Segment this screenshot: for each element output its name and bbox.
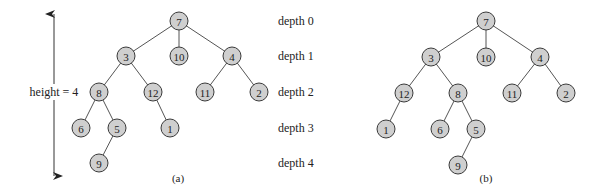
node-label: 2	[563, 88, 569, 100]
height-annotation: height = 4	[30, 14, 79, 176]
tree-edge	[126, 21, 179, 56]
node-label: 8	[455, 88, 461, 100]
tree-node: 3	[422, 48, 440, 66]
node-label: 10	[174, 51, 186, 63]
node-label: 9	[96, 158, 102, 170]
tree-edge	[431, 21, 486, 57]
tree-node: 6	[431, 120, 449, 138]
node-label: 3	[428, 52, 434, 64]
depth-label: depth 2	[278, 85, 314, 99]
depth-label: depth 1	[278, 49, 314, 63]
depth-label: depth 4	[278, 156, 314, 170]
node-label: 7	[176, 16, 182, 28]
node-label: 12	[148, 87, 159, 99]
node-label: 6	[78, 123, 84, 135]
tree-node: 11	[503, 84, 521, 102]
depth-label: depth 3	[278, 121, 314, 135]
tree-node: 9	[449, 156, 467, 174]
tree-b-nodes: 731041281121659	[377, 12, 575, 174]
tree-edge	[179, 21, 232, 56]
tree-node: 5	[467, 120, 485, 138]
node-label: 1	[383, 124, 389, 136]
node-label: 11	[507, 88, 518, 100]
tree-node: 4	[223, 47, 241, 65]
tree-node: 10	[477, 48, 495, 66]
tree-node: 10	[170, 47, 188, 65]
node-label: 6	[437, 124, 443, 136]
node-label: 5	[114, 123, 120, 135]
tree-node: 3	[117, 47, 135, 65]
node-label: 11	[200, 87, 211, 99]
tree-node: 8	[449, 84, 467, 102]
node-label: 12	[399, 88, 410, 100]
node-label: 7	[483, 16, 489, 28]
tree-node: 2	[250, 83, 268, 101]
node-label: 10	[481, 52, 493, 64]
tree-node: 12	[395, 84, 413, 102]
tree-diagram-canvas: height = 4 depth 0depth 1depth 2depth 3d…	[0, 0, 604, 196]
tree-node: 7	[477, 12, 495, 30]
tree-node: 1	[161, 119, 179, 137]
tree-b-caption: (b)	[480, 172, 493, 185]
node-label: 4	[229, 51, 235, 63]
node-label: 5	[473, 124, 479, 136]
tree-node: 11	[196, 83, 214, 101]
tree-node: 9	[90, 154, 108, 172]
depth-label: depth 0	[278, 14, 314, 28]
node-label: 3	[123, 51, 129, 63]
tree-node: 4	[531, 48, 549, 66]
height-label: height = 4	[30, 85, 79, 99]
tree-node: 1	[377, 120, 395, 138]
tree-node: 6	[72, 119, 90, 137]
node-label: 9	[455, 160, 461, 172]
tree-node: 12	[144, 83, 162, 101]
tree-node: 5	[108, 119, 126, 137]
node-label: 8	[96, 87, 102, 99]
node-label: 2	[256, 87, 262, 99]
depth-labels: depth 0depth 1depth 2depth 3depth 4	[278, 14, 314, 170]
node-label: 4	[537, 52, 543, 64]
tree-a-caption: (a)	[172, 172, 185, 185]
tree-node: 7	[170, 12, 188, 30]
node-label: 1	[167, 123, 173, 135]
tree-b: 731041281121659 (b)	[377, 12, 575, 185]
tree-a: 731048121126519 (a)	[72, 12, 268, 185]
tree-a-nodes: 731048121126519	[72, 12, 268, 172]
tree-node: 2	[557, 84, 575, 102]
tree-node: 8	[90, 83, 108, 101]
tree-edge	[486, 21, 540, 57]
